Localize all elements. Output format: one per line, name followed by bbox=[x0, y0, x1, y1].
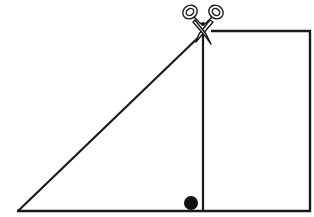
triangle-hypotenuse bbox=[18, 31, 205, 211]
right-angle-dot bbox=[184, 196, 198, 210]
diagram-canvas bbox=[0, 0, 314, 217]
